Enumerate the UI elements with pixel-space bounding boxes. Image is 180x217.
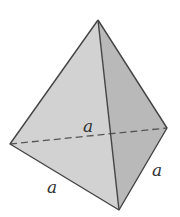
- tetrahedron-diagram: a a a: [0, 0, 180, 217]
- label-back-edge: a: [83, 116, 93, 136]
- label-right-bottom-edge: a: [152, 160, 162, 180]
- label-left-bottom-edge: a: [47, 177, 57, 197]
